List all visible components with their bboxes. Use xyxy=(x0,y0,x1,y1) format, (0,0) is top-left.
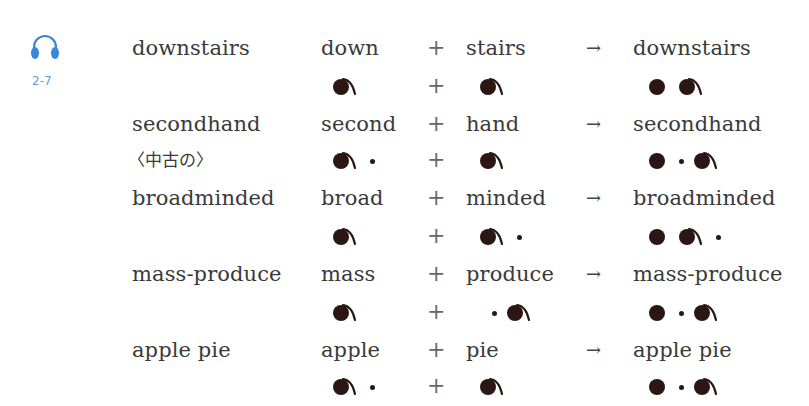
headphones-icon[interactable] xyxy=(28,32,62,66)
arrow-symbol: → xyxy=(586,36,601,60)
result-word: apple pie xyxy=(633,338,732,362)
primary-stress-icon xyxy=(480,78,503,96)
plus-sign: + xyxy=(427,186,445,210)
primary-stress-icon xyxy=(694,304,717,322)
part1-word: broad xyxy=(321,186,384,210)
part1-word: second xyxy=(321,112,396,136)
primary-stress-icon xyxy=(333,378,356,396)
primary-stress-icon xyxy=(333,228,356,246)
result-accent xyxy=(649,376,717,398)
part2-accent xyxy=(492,302,530,324)
secondary-stress-icon xyxy=(649,229,665,245)
arrow-symbol: → xyxy=(586,186,601,210)
plus-sign: + xyxy=(427,374,445,398)
primary-stress-icon xyxy=(679,228,702,246)
result-word: downstairs xyxy=(633,36,751,60)
part2-accent xyxy=(480,376,503,398)
unstressed-dot-icon xyxy=(716,235,721,240)
part1-accent xyxy=(333,226,356,248)
track-number: 2-7 xyxy=(32,74,52,88)
part2-word: pie xyxy=(466,338,499,362)
plus-sign: + xyxy=(427,74,445,98)
unstressed-dot-icon xyxy=(517,235,522,240)
part1-accent xyxy=(333,302,356,324)
primary-stress-icon xyxy=(507,304,530,322)
result-accent xyxy=(649,226,721,248)
plus-sign: + xyxy=(427,338,445,362)
plus-sign: + xyxy=(427,148,445,172)
secondary-stress-icon xyxy=(649,153,665,169)
result-word: broadminded xyxy=(633,186,776,210)
compound-word: mass-produce xyxy=(132,262,282,286)
result-accent xyxy=(649,76,702,98)
result-word: mass-produce xyxy=(633,262,783,286)
part1-word: mass xyxy=(321,262,375,286)
arrow-symbol: → xyxy=(586,112,601,136)
primary-stress-icon xyxy=(694,378,717,396)
unstressed-dot-icon xyxy=(370,159,375,164)
arrow-symbol: → xyxy=(586,262,601,286)
part2-word: produce xyxy=(466,262,554,286)
primary-stress-icon xyxy=(333,78,356,96)
compound-word: apple pie xyxy=(132,338,231,362)
primary-stress-icon xyxy=(694,152,717,170)
secondary-stress-icon xyxy=(649,305,665,321)
primary-stress-icon xyxy=(480,152,503,170)
part2-accent xyxy=(480,76,503,98)
secondary-stress-icon xyxy=(649,79,665,95)
part1-accent xyxy=(333,150,375,172)
result-accent xyxy=(649,150,717,172)
plus-sign: + xyxy=(427,36,445,60)
unstressed-dot-icon xyxy=(370,385,375,390)
arrow-symbol: → xyxy=(586,338,601,362)
plus-sign: + xyxy=(427,112,445,136)
compound-word: broadminded xyxy=(132,186,275,210)
part2-accent xyxy=(480,150,503,172)
secondary-stress-icon xyxy=(649,379,665,395)
primary-stress-icon xyxy=(480,378,503,396)
result-accent xyxy=(649,302,717,324)
part1-accent xyxy=(333,376,375,398)
part1-word: down xyxy=(321,36,379,60)
unstressed-dot-icon xyxy=(679,159,684,164)
plus-sign: + xyxy=(427,300,445,324)
plus-sign: + xyxy=(427,224,445,248)
part1-accent xyxy=(333,76,356,98)
unstressed-dot-icon xyxy=(679,385,684,390)
compound-word: secondhand xyxy=(132,112,261,136)
part2-word: hand xyxy=(466,112,519,136)
plus-sign: + xyxy=(427,262,445,286)
part2-word: stairs xyxy=(466,36,526,60)
unstressed-dot-icon xyxy=(679,311,684,316)
compound-word: downstairs xyxy=(132,36,250,60)
gloss-japanese: 〈中古の〉 xyxy=(128,148,213,172)
unstressed-dot-icon xyxy=(492,311,497,316)
primary-stress-icon xyxy=(679,78,702,96)
part2-accent xyxy=(480,226,522,248)
primary-stress-icon xyxy=(333,304,356,322)
primary-stress-icon xyxy=(333,152,356,170)
primary-stress-icon xyxy=(480,228,503,246)
part2-word: minded xyxy=(466,186,546,210)
part1-word: apple xyxy=(321,338,380,362)
result-word: secondhand xyxy=(633,112,762,136)
